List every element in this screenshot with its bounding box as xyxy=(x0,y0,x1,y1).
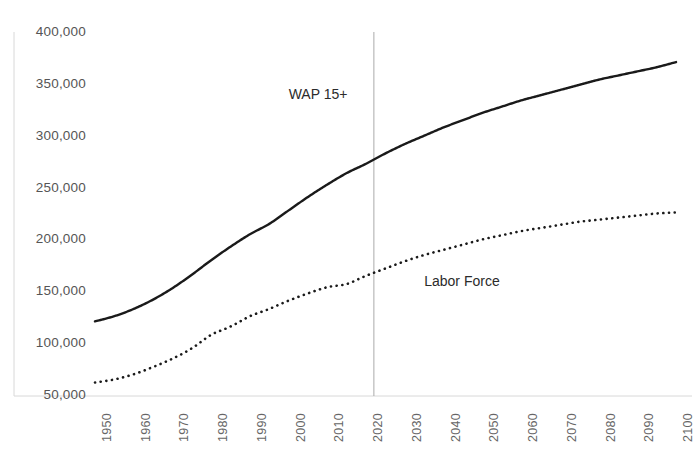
y-tick-label: 200,000 xyxy=(36,232,86,246)
x-tick-label: 2020 xyxy=(372,413,385,442)
x-tick-label: 2080 xyxy=(605,413,618,442)
x-tick-label: 2090 xyxy=(643,413,656,442)
y-tick-label: 300,000 xyxy=(36,129,86,143)
series-line-wap xyxy=(95,62,676,321)
x-tick-label: 2030 xyxy=(411,413,424,442)
y-tick-label: 100,000 xyxy=(36,336,86,350)
x-tick-label: 1980 xyxy=(217,413,230,442)
series-line-labor-force xyxy=(95,212,676,382)
x-tick-label: 2050 xyxy=(488,413,501,442)
x-tick-label: 1960 xyxy=(140,413,153,442)
y-tick-label: 400,000 xyxy=(36,25,86,39)
x-tick-label: 2000 xyxy=(295,413,308,442)
y-tick-label: 350,000 xyxy=(36,77,86,91)
chart-plot-area xyxy=(0,0,700,456)
chart-container: 50,000100,000150,000200,000250,000300,00… xyxy=(0,0,700,456)
x-tick-label: 2010 xyxy=(333,413,346,442)
x-tick-label: 2100 xyxy=(682,413,695,442)
y-tick-label: 150,000 xyxy=(36,284,86,298)
series-label-wap: WAP 15+ xyxy=(289,87,348,101)
y-tick-label: 50,000 xyxy=(44,388,87,402)
y-tick-label: 250,000 xyxy=(36,181,86,195)
x-tick-label: 1990 xyxy=(256,413,269,442)
series-label-labor-force: Labor Force xyxy=(424,274,499,288)
x-tick-label: 1950 xyxy=(101,413,114,442)
x-tick-label: 1970 xyxy=(178,413,191,442)
x-tick-label: 2040 xyxy=(450,413,463,442)
x-tick-label: 2070 xyxy=(566,413,579,442)
axis-lines xyxy=(14,32,692,396)
x-tick-label: 2060 xyxy=(527,413,540,442)
